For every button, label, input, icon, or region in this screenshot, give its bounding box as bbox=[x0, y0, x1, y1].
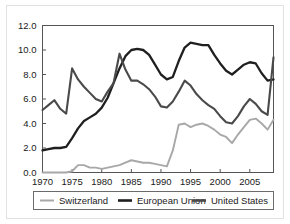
x-tick-label: 2000 bbox=[210, 176, 231, 187]
x-tick-label: 1990 bbox=[150, 176, 171, 187]
y-tick-label: 4.0 bbox=[23, 118, 36, 129]
chart-figure: 0.02.04.06.08.010.012.0 1970197519801985… bbox=[0, 0, 290, 224]
x-tick-label: 1980 bbox=[91, 176, 112, 187]
line-chart: 0.02.04.06.08.010.012.0 1970197519801985… bbox=[0, 0, 290, 224]
x-tick-label: 1995 bbox=[180, 176, 201, 187]
y-tick-label: 10.0 bbox=[18, 44, 37, 55]
y-tick-label: 2.0 bbox=[23, 142, 36, 153]
x-tick-label: 1985 bbox=[121, 176, 142, 187]
plot-area-border bbox=[43, 26, 274, 173]
series-line-switzerland bbox=[43, 119, 274, 173]
y-axis-tick-labels: 0.02.04.06.08.010.012.0 bbox=[18, 20, 37, 178]
y-tick-label: 12.0 bbox=[18, 20, 37, 31]
x-tick-label: 1975 bbox=[62, 176, 83, 187]
y-tick-label: 6.0 bbox=[23, 93, 36, 104]
x-axis-tick-labels: 19701975198019851990199520002005 bbox=[32, 176, 260, 187]
series-lines bbox=[43, 43, 274, 173]
legend-label-switzerland: Switzerland bbox=[59, 195, 108, 206]
axis-tick-marks bbox=[43, 26, 250, 173]
series-line-united-states bbox=[43, 54, 274, 124]
x-tick-label: 1970 bbox=[32, 176, 53, 187]
x-tick-label: 2005 bbox=[239, 176, 260, 187]
chart-legend: SwitzerlandEuropean UnionUnited States bbox=[34, 192, 274, 210]
legend-label-united-states: United States bbox=[211, 195, 268, 206]
y-tick-label: 8.0 bbox=[23, 69, 36, 80]
